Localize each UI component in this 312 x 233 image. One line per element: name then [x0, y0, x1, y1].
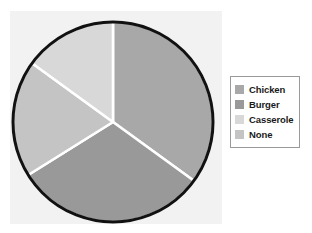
pie-svg [10, 11, 222, 224]
pie-chart-plot-area [10, 11, 222, 224]
legend-label-casserole: Casserole [249, 115, 294, 125]
legend-item-none[interactable]: None [235, 127, 299, 142]
legend-label-burger: Burger [249, 100, 280, 110]
legend-item-chicken[interactable]: Chicken [235, 82, 299, 97]
legend-swatch-casserole [235, 115, 244, 124]
legend-label-chicken: Chicken [249, 85, 285, 95]
legend: Chicken Burger Casserole None [230, 76, 300, 148]
pie-chart-figure: Chicken Burger Casserole None [0, 0, 312, 233]
legend-item-casserole[interactable]: Casserole [235, 112, 299, 127]
legend-swatch-chicken [235, 85, 244, 94]
legend-item-burger[interactable]: Burger [235, 97, 299, 112]
legend-label-none: None [249, 130, 272, 140]
legend-swatch-burger [235, 100, 244, 109]
legend-swatch-none [235, 130, 244, 139]
